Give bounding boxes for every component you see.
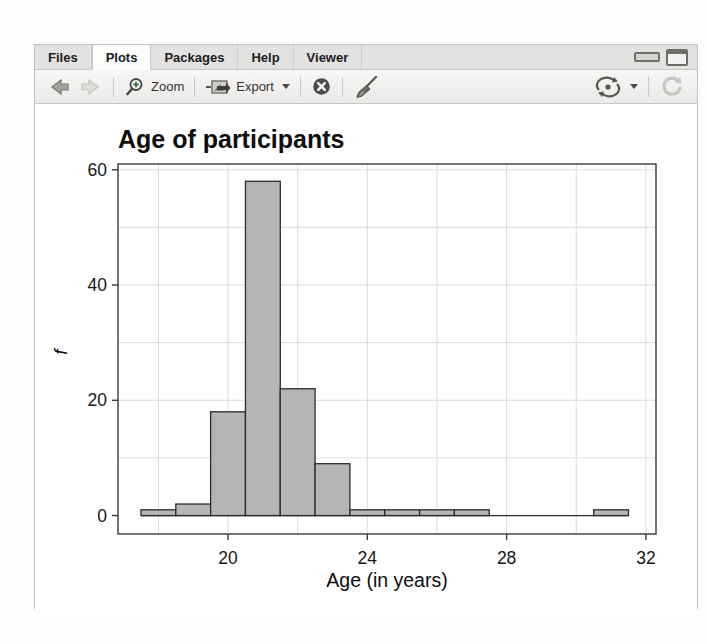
tab-viewer-label: Viewer <box>307 50 349 65</box>
plot-canvas: 202428320204060Age of participantsAge (i… <box>35 104 697 610</box>
refresh-icon <box>659 74 685 100</box>
chevron-down-icon <box>630 84 638 89</box>
pane-tabbar: Files Plots Packages Help Viewer <box>35 45 697 70</box>
histogram-bar <box>420 510 455 516</box>
tab-files[interactable]: Files <box>35 45 92 69</box>
plot-export-icon <box>205 77 231 97</box>
histogram-bar <box>594 510 629 516</box>
x-tick-label: 20 <box>218 548 238 568</box>
tab-packages[interactable]: Packages <box>151 45 238 69</box>
screenshot-root: Files Plots Packages Help Viewer <box>0 0 708 644</box>
y-tick-label: 20 <box>88 390 108 410</box>
zoom-button-label: Zoom <box>151 79 184 94</box>
plots-toolbar: Zoom Export <box>35 70 697 104</box>
toolbar-separator <box>342 77 343 97</box>
x-tick-label: 28 <box>497 548 516 568</box>
export-button-label: Export <box>236 79 274 94</box>
circle-x-icon <box>311 76 332 97</box>
x-tick-label: 24 <box>358 548 378 568</box>
histogram-bar <box>245 181 280 515</box>
publish-button[interactable] <box>590 72 642 102</box>
y-axis-label: f <box>50 348 71 355</box>
tab-help-label: Help <box>251 50 279 65</box>
chevron-down-icon <box>282 84 290 89</box>
tab-packages-label: Packages <box>164 50 224 65</box>
magnifier-plus-icon <box>124 76 146 98</box>
sync-arrows-icon <box>594 75 622 99</box>
histogram-bar <box>211 412 246 516</box>
y-tick-label: 40 <box>88 275 108 295</box>
tab-plots[interactable]: Plots <box>92 45 152 70</box>
remove-plot-button[interactable] <box>307 73 336 100</box>
x-axis-label: Age (in years) <box>326 569 447 591</box>
histogram-bar <box>141 510 176 516</box>
zoom-button[interactable]: Zoom <box>120 73 188 101</box>
maximize-icon[interactable] <box>666 49 688 66</box>
refresh-button[interactable] <box>655 71 689 103</box>
histogram-bar <box>350 510 385 516</box>
window-controls <box>634 45 697 69</box>
tab-plots-label: Plots <box>106 50 138 65</box>
plot-box <box>118 164 656 534</box>
x-tick-label: 32 <box>636 548 655 568</box>
chart-title: Age of participants <box>118 125 344 153</box>
minimize-icon[interactable] <box>634 52 660 62</box>
histogram-bar <box>315 464 350 516</box>
y-tick-label: 0 <box>97 506 107 526</box>
tab-files-label: Files <box>48 50 78 65</box>
back-button[interactable] <box>43 74 75 100</box>
toolbar-separator <box>113 77 114 97</box>
arrow-right-icon <box>79 77 103 97</box>
histogram-figure: 202428320204060Age of participantsAge (i… <box>35 104 699 610</box>
arrow-left-icon <box>47 77 71 97</box>
toolbar-separator <box>194 77 195 97</box>
tab-help[interactable]: Help <box>238 45 293 69</box>
broom-icon <box>353 75 379 99</box>
forward-button[interactable] <box>75 74 107 100</box>
export-button[interactable]: Export <box>201 74 294 100</box>
toolbar-separator <box>648 77 649 97</box>
histogram-bar <box>454 510 489 516</box>
histogram-bar <box>280 389 315 516</box>
tab-viewer[interactable]: Viewer <box>294 45 363 69</box>
rstudio-plots-pane: Files Plots Packages Help Viewer <box>34 44 698 609</box>
toolbar-separator <box>300 77 301 97</box>
clear-all-plots-button[interactable] <box>349 72 383 102</box>
histogram-bar <box>176 504 211 516</box>
y-tick-label: 60 <box>88 160 108 180</box>
histogram-bar <box>385 510 420 516</box>
